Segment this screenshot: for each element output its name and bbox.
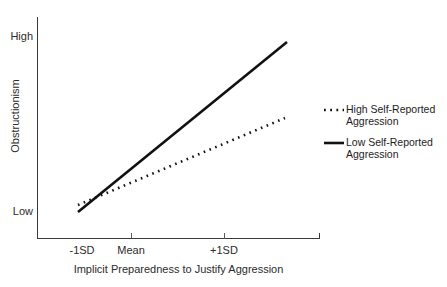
x-axis-line	[37, 238, 320, 239]
legend-label-high-self-reported-aggression: High Self-Reported Aggression	[346, 103, 435, 127]
x-axis-title: Implicit Preparedness to Justify Aggress…	[37, 263, 320, 275]
legend-item-low-self-reported-aggression: Low Self-Reported Aggression	[324, 136, 447, 160]
x-axis-tick-plus-1sd	[224, 233, 225, 239]
legend-label-line1: Low Self-Reported	[346, 136, 433, 148]
legend-label-line2: Aggression	[346, 115, 399, 127]
legend-label-line1: High Self-Reported	[346, 103, 435, 115]
x-axis-tick-label-plus-1sd: +1SD	[194, 244, 254, 256]
y-axis-title: Obstructionism	[9, 64, 21, 168]
x-axis-end-tick	[319, 233, 320, 239]
y-axis-label-high: High	[0, 30, 33, 42]
y-axis-line	[37, 17, 38, 239]
legend-item-high-self-reported-aggression: High Self-Reported Aggression	[324, 103, 447, 127]
chart-figure: High Low Obstructionism -1SD Mean +1SD I…	[0, 0, 447, 287]
legend-solid-line-icon	[324, 137, 344, 149]
y-axis-label-low: Low	[0, 205, 33, 217]
legend-label-line2: Aggression	[346, 148, 399, 160]
series-line-high-self-reported-aggression	[78, 118, 285, 205]
x-axis-tick-mean	[131, 233, 132, 239]
series-line-low-self-reported-aggression	[78, 42, 287, 212]
legend-dotted-line-icon	[324, 104, 344, 116]
legend-label-low-self-reported-aggression: Low Self-Reported Aggression	[346, 136, 433, 160]
x-axis-tick-label-mean: Mean	[101, 244, 161, 256]
chart-legend: High Self-Reported Aggression Low Self-R…	[324, 103, 447, 169]
